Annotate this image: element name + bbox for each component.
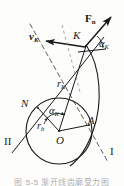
rb-tick (44, 118, 48, 124)
label-angle-inner: αK (49, 106, 59, 117)
label-point-a: A (88, 116, 94, 127)
label-center-o: O (56, 135, 64, 146)
diagram-canvas (0, 0, 124, 186)
label-point-k: K (73, 30, 80, 41)
involute-profile-arc (70, 45, 99, 166)
label-angle-top: αK (99, 39, 109, 50)
label-line-two: II (4, 136, 11, 147)
label-line-one: I (110, 146, 114, 157)
label-radius-rb: rb (37, 121, 44, 132)
figure-caption: 图 5-5 渐开线齿廓受力图 (0, 176, 124, 186)
involute-force-diagram: Fn vK K αK rK N αK rb A O II I 图 5-5 渐开线… (0, 0, 124, 186)
label-point-n: N (21, 98, 28, 109)
label-radius-rk: rK (57, 79, 65, 90)
segment-oa-line (59, 125, 89, 131)
label-velocity: vK (29, 31, 38, 42)
label-force-normal: Fn (85, 13, 96, 24)
velocity-arrow (46, 41, 85, 47)
